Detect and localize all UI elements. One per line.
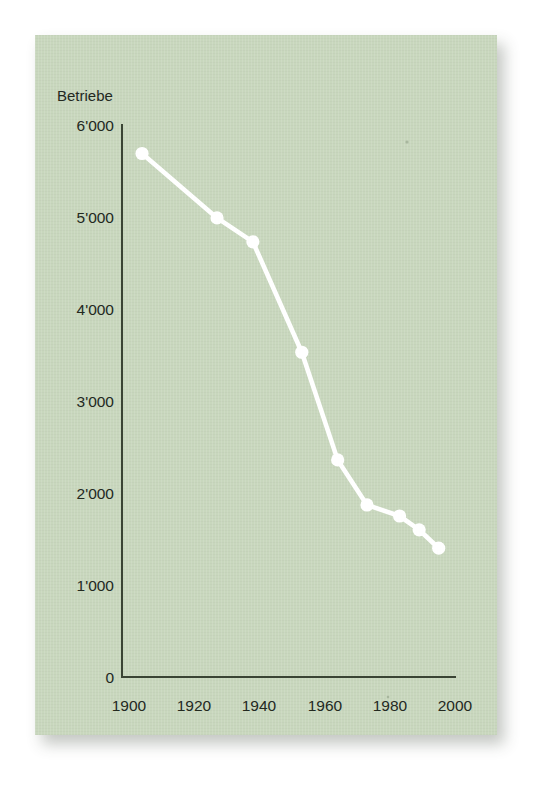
data-point [360, 498, 373, 511]
print-speck [387, 696, 390, 699]
line-chart: Betriebe 6'000 5'000 4'000 3'000 2'000 1… [35, 35, 497, 735]
y-tick-label-0: 0 [105, 669, 114, 686]
y-tick-label-4000: 4'000 [77, 301, 115, 318]
y-tick-label-5000: 5'000 [77, 209, 115, 226]
chart-card: Betriebe 6'000 5'000 4'000 3'000 2'000 1… [35, 35, 497, 735]
x-axis-tick-labels: 1900 1920 1940 1960 1980 2000 [112, 697, 473, 714]
x-tick-label-1980: 1980 [373, 697, 408, 714]
x-tick-label-2000: 2000 [438, 697, 473, 714]
data-point [432, 542, 445, 555]
y-tick-label-6000: 6'000 [77, 117, 115, 134]
chart-axes [122, 125, 455, 677]
y-tick-label-3000: 3'000 [77, 393, 115, 410]
series-markers-betriebe [135, 147, 445, 555]
data-point [413, 523, 426, 536]
data-point [135, 147, 148, 160]
x-tick-label-1940: 1940 [242, 697, 277, 714]
data-point [331, 453, 344, 466]
x-tick-label-1900: 1900 [112, 697, 147, 714]
data-point [210, 211, 223, 224]
data-point [246, 235, 259, 248]
x-tick-label-1920: 1920 [177, 697, 212, 714]
data-point [295, 346, 308, 359]
y-axis-tick-labels: 6'000 5'000 4'000 3'000 2'000 1'000 0 [77, 117, 115, 686]
y-axis-title: Betriebe [57, 87, 113, 104]
y-tick-label-2000: 2'000 [77, 485, 115, 502]
series-line-betriebe [142, 154, 439, 549]
y-tick-label-1000: 1'000 [77, 577, 115, 594]
x-tick-label-1960: 1960 [308, 697, 343, 714]
print-speck [405, 140, 408, 143]
data-point [393, 509, 406, 522]
